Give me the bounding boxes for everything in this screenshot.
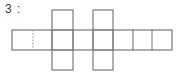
diagram-canvas: 3 : xyxy=(0,0,185,76)
box-net-figure xyxy=(0,0,185,76)
strip-face-area xyxy=(12,30,172,50)
column-1-face-area xyxy=(52,10,73,70)
net-faces xyxy=(12,10,172,70)
column-2-face-area xyxy=(93,10,113,70)
